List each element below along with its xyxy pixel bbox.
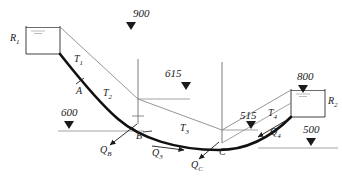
junction-label-a: A — [76, 86, 82, 96]
elevation-datum-lines — [58, 99, 338, 148]
discharge-label-qb: QB — [100, 145, 112, 158]
hydraulic-schematic-figure: 900 615 600 800 515 500 R1 R2 T1 T2 T3 T… — [0, 0, 342, 187]
junction-label-c: C — [219, 147, 226, 157]
discharge-label-q3: Q3 — [152, 148, 163, 161]
elevation-label-515: 515 — [240, 110, 257, 121]
elevation-label-800: 800 — [297, 71, 314, 82]
pipe-label-t2: T2 — [103, 88, 112, 101]
reservoir-label-r2: R2 — [328, 96, 338, 109]
elevation-marker-600 — [64, 121, 74, 129]
elevation-marker-800 — [298, 85, 308, 93]
hydraulic-grade-line — [60, 27, 291, 143]
reservoir-label-r1: R1 — [10, 33, 20, 46]
elevation-marker-500 — [306, 138, 316, 146]
elevation-label-500: 500 — [303, 124, 320, 135]
elevation-label-615: 615 — [165, 68, 182, 79]
pipe-label-t4: T4 — [268, 108, 277, 121]
discharge-label-qc: QC — [191, 160, 203, 173]
reservoir-r1-body — [26, 26, 60, 54]
elevation-label-900: 900 — [133, 8, 150, 19]
pipe-label-t3: T3 — [180, 123, 189, 136]
schematic-drawing — [0, 0, 342, 187]
elevation-label-600: 600 — [61, 107, 78, 118]
elevation-marker-900 — [126, 22, 136, 30]
discharge-arrow-qb — [110, 124, 137, 145]
discharge-label-q4: Q4 — [270, 127, 281, 140]
reservoir-r2-body — [291, 89, 325, 117]
pipe-label-t1: T1 — [74, 54, 83, 67]
junction-label-b: B — [136, 131, 142, 141]
elevation-marker-615 — [181, 82, 191, 90]
